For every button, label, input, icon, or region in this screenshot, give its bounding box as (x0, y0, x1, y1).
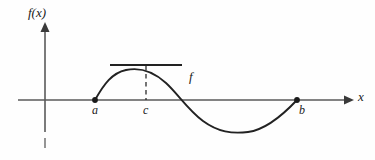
y-axis-arrowhead (41, 22, 50, 32)
label-point-b: b (299, 104, 305, 116)
x-axis-arrowhead (344, 96, 354, 105)
label-point-c: c (143, 104, 148, 116)
y-axis-label: f(x) (28, 6, 46, 19)
figure-container: f(x) x a c b f (0, 0, 375, 160)
x-axis-label: x (358, 90, 364, 103)
calculus-figure-svg (0, 0, 375, 160)
label-curve-f: f (189, 70, 193, 83)
function-curve-f (95, 69, 297, 133)
label-point-a: a (92, 104, 98, 116)
